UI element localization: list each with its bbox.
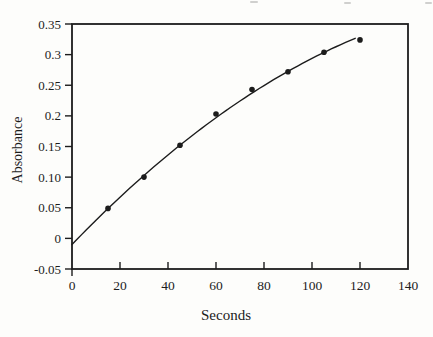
y-tick-label: 0.3 — [45, 47, 61, 62]
x-tick-label: 120 — [350, 278, 371, 293]
data-point — [213, 111, 219, 117]
x-tick-label: 100 — [302, 278, 323, 293]
y-axis-title: Absorbance — [10, 117, 25, 184]
data-point — [285, 69, 291, 75]
data-point — [105, 206, 111, 212]
y-tick-label: 0.2 — [45, 108, 61, 123]
x-tick-label: 140 — [398, 278, 419, 293]
y-tick-label: 0.35 — [38, 17, 61, 32]
data-point — [249, 87, 255, 93]
x-axis-title: Seconds — [201, 307, 251, 323]
chart-canvas: 020406080100120140-0.0500.050.100.150.20… — [0, 0, 433, 337]
data-point — [177, 143, 183, 149]
y-tick-label: 0 — [55, 231, 62, 246]
plot-frame — [72, 24, 408, 269]
y-tick-label: 0.15 — [38, 139, 61, 154]
data-point — [357, 37, 363, 43]
x-tick-label: 0 — [69, 278, 76, 293]
x-tick-label: 40 — [161, 278, 175, 293]
y-tick-label: 0.05 — [38, 200, 61, 215]
figure-page: 020406080100120140-0.0500.050.100.150.20… — [0, 0, 433, 337]
x-tick-label: 60 — [209, 278, 223, 293]
y-tick-label: -0.05 — [34, 262, 61, 277]
x-tick-label: 80 — [257, 278, 271, 293]
data-point — [321, 49, 327, 55]
fit-curve — [72, 38, 355, 244]
y-tick-label: 0.25 — [38, 78, 61, 93]
chart-generated-layer: 020406080100120140-0.0500.050.100.150.20… — [34, 17, 418, 294]
x-tick-label: 20 — [113, 278, 127, 293]
data-point — [141, 174, 147, 180]
y-tick-label: 0.10 — [38, 170, 61, 185]
